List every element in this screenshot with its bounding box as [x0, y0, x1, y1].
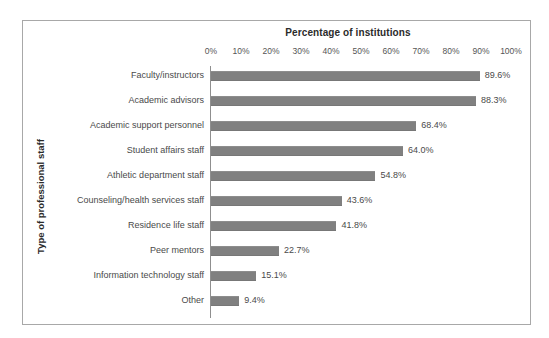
bar	[211, 71, 480, 81]
category-label: Peer mentors	[150, 245, 204, 255]
bar-value-label: 15.1%	[261, 270, 287, 280]
bar	[211, 221, 336, 231]
bar	[211, 171, 375, 181]
bar-row: Academic advisors88.3%	[23, 89, 532, 114]
bar	[211, 96, 476, 106]
bar-row: Residence life staff41.8%	[23, 214, 532, 239]
bar-value-label: 68.4%	[421, 120, 447, 130]
x-axis-tick-label: 30%	[292, 46, 309, 56]
bar-value-label: 41.8%	[341, 220, 367, 230]
x-axis-tick-label: 100%	[500, 46, 522, 56]
x-axis-tick-label: 80%	[442, 46, 459, 56]
bar	[211, 296, 239, 306]
bar-row: Information technology staff15.1%	[23, 264, 532, 289]
bar	[211, 246, 279, 256]
bar-row: Student affairs staff64.0%	[23, 139, 532, 164]
category-label: Academic support personnel	[90, 120, 204, 130]
bar-row: Faculty/instructors89.6%	[23, 64, 532, 89]
bar-value-label: 22.7%	[284, 245, 310, 255]
category-label: Residence life staff	[128, 220, 204, 230]
bar-value-label: 43.6%	[347, 195, 373, 205]
x-axis-tick-label: 20%	[262, 46, 279, 56]
bar-value-label: 88.3%	[481, 95, 507, 105]
category-label: Counseling/health services staff	[77, 195, 204, 205]
plot-area: Faculty/instructors89.6%Academic advisor…	[23, 64, 532, 322]
x-axis-tick-label: 10%	[232, 46, 249, 56]
bar-row: Academic support personnel68.4%	[23, 114, 532, 139]
category-label: Athletic department staff	[107, 170, 204, 180]
bar-value-label: 9.4%	[244, 295, 265, 305]
chart-figure: Percentage of institutions 0%10%20%30%40…	[22, 20, 531, 325]
bar-row: Other9.4%	[23, 289, 532, 314]
x-axis-tick-label: 70%	[412, 46, 429, 56]
x-axis-tick-label: 50%	[352, 46, 369, 56]
bar-row: Peer mentors22.7%	[23, 239, 532, 264]
bar	[211, 271, 256, 281]
bar	[211, 121, 416, 131]
category-label: Academic advisors	[128, 95, 204, 105]
bar-row: Counseling/health services staff43.6%	[23, 189, 532, 214]
x-axis-tick-label: 90%	[472, 46, 489, 56]
category-label: Faculty/instructors	[131, 70, 204, 80]
bar-row: Athletic department staff54.8%	[23, 164, 532, 189]
x-axis-tick-label: 60%	[382, 46, 399, 56]
bar-value-label: 64.0%	[408, 145, 434, 155]
x-axis-tick-label: 40%	[322, 46, 339, 56]
bar	[211, 196, 342, 206]
bar-value-label: 89.6%	[485, 70, 511, 80]
x-axis-tick-label: 0%	[205, 46, 217, 56]
category-label: Student affairs staff	[127, 145, 204, 155]
category-label: Other	[181, 295, 204, 305]
bar	[211, 146, 403, 156]
category-label: Information technology staff	[94, 270, 204, 280]
bar-value-label: 54.8%	[380, 170, 406, 180]
x-axis-tick-labels: 0%10%20%30%40%50%60%70%80%90%100%	[23, 46, 532, 60]
chart-title: Percentage of institutions	[188, 27, 508, 38]
